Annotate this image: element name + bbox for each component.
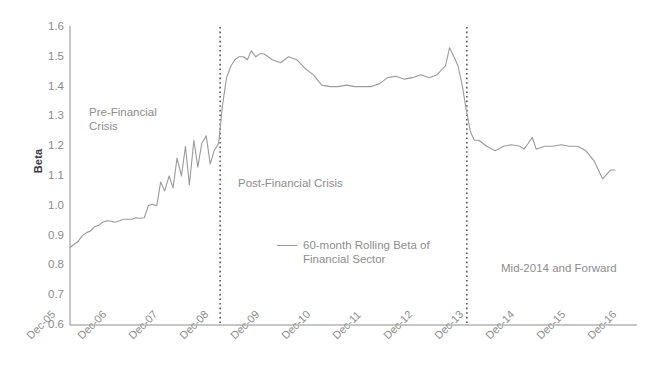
series-line-rolling-beta xyxy=(70,48,615,248)
annotation-post-financial-crisis: Post-Financial Crisis xyxy=(238,176,343,190)
legend: 60-month Rolling Beta of Financial Secto… xyxy=(277,238,430,266)
legend-line-swatch xyxy=(277,245,297,246)
beta-line-chart: Beta 1.6 1.5 1.4 1.3 1.2 1.1 1.0 0.9 0.8… xyxy=(0,0,649,387)
annotation-pre-financial-crisis: Pre-Financial Crisis xyxy=(89,105,157,133)
annotation-mid-2014-and-forward: Mid-2014 and Forward xyxy=(501,261,617,275)
legend-label: 60-month Rolling Beta of Financial Secto… xyxy=(303,238,430,266)
